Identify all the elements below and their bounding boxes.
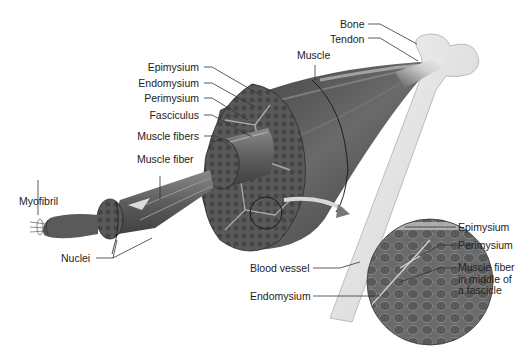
label-muscle-fibers: Muscle fibers: [137, 130, 199, 142]
micro-label-muscle-fiber: Muscle fiber in middle of a fascicle: [458, 262, 515, 297]
label-epimysium: Epimysium: [148, 61, 199, 73]
label-muscle: Muscle: [297, 49, 330, 61]
label-bone: Bone: [340, 18, 365, 30]
micro-label-blood-vessel: Blood vessel: [250, 262, 310, 274]
label-perimysium: Perimysium: [144, 92, 199, 104]
label-tendon: Tendon: [330, 33, 364, 45]
muscle-fiber-shape: [97, 170, 214, 254]
muscle-diagram: Bone Tendon Muscle Epimysium Endomysium …: [0, 0, 532, 349]
label-nuclei: Nuclei: [61, 252, 90, 264]
micro-label-perimysium: Perimysium: [458, 239, 513, 251]
myofibril-shape: [30, 214, 98, 238]
label-endomysium: Endomysium: [138, 77, 199, 89]
label-fasciculus: Fasciculus: [149, 109, 199, 121]
micro-label-epimysium: Epimysium: [458, 221, 509, 233]
label-myofibril: Myofibril: [19, 195, 58, 207]
micro-label-muscle-fiber-line3: a fascicle: [458, 285, 515, 297]
label-muscle-fiber: Muscle fiber: [137, 153, 194, 165]
micro-label-muscle-fiber-line1: Muscle fiber: [458, 262, 515, 274]
micro-label-endomysium: Endomysium: [250, 290, 311, 302]
